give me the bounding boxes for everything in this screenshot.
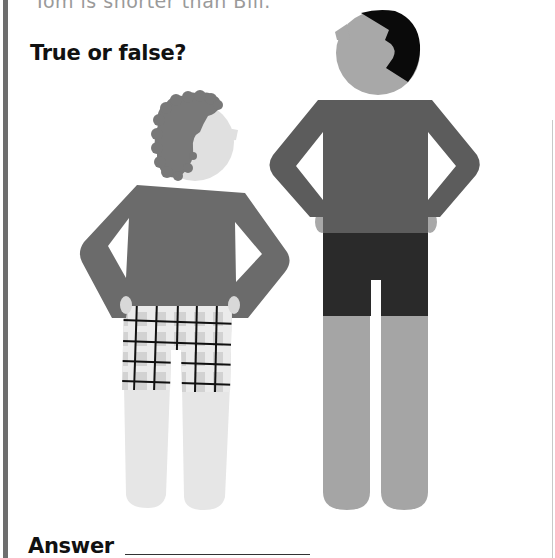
short-man-left-hand [120, 296, 132, 314]
figures-illustration [0, 0, 555, 558]
short-man-plaid-shorts [118, 296, 238, 396]
answer-row: Answer [28, 534, 310, 558]
tall-man-right-leg [381, 310, 428, 510]
answer-label: Answer [28, 534, 114, 558]
short-man-head [151, 90, 238, 181]
tall-man-head [335, 10, 420, 95]
tall-man-left-leg [323, 310, 370, 510]
short-man-left-leg [124, 385, 170, 508]
tall-man-figure [270, 10, 480, 510]
short-man-figure [80, 90, 290, 510]
answer-blank-line[interactable] [125, 554, 310, 555]
short-man-shirt [80, 185, 290, 318]
tall-man-shorts [323, 233, 428, 316]
tall-man-shirt [270, 100, 480, 233]
short-man-right-hand [228, 296, 240, 314]
short-man-right-leg [182, 385, 230, 510]
